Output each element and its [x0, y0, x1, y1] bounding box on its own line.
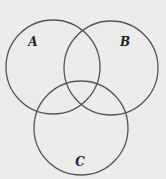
venn-diagram: A B C [0, 0, 166, 179]
label-c: C [75, 155, 85, 169]
circle-a [6, 20, 100, 114]
label-b: B [119, 35, 130, 49]
circle-b [64, 21, 158, 115]
label-a: A [27, 35, 37, 49]
